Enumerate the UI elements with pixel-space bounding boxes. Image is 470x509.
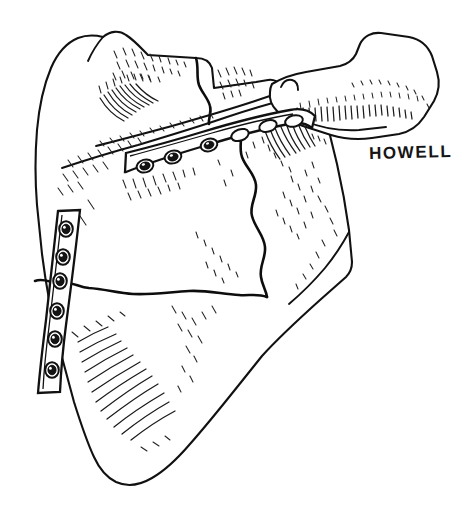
scapula-diagram — [0, 0, 470, 509]
lateral-plate-screw-1[interactable] — [59, 221, 73, 237]
lateral-plate-screw-6[interactable] — [45, 362, 59, 378]
lateral-plate-screw-3[interactable] — [53, 273, 67, 289]
lateral-plate-screw-4[interactable] — [50, 303, 64, 319]
artist-signature: HOWELL — [368, 142, 452, 164]
lateral-plate-screw-5[interactable] — [48, 331, 62, 347]
lateral-plate-screw-2[interactable] — [56, 249, 70, 265]
illustration-canvas: HOWELL — [0, 0, 470, 509]
